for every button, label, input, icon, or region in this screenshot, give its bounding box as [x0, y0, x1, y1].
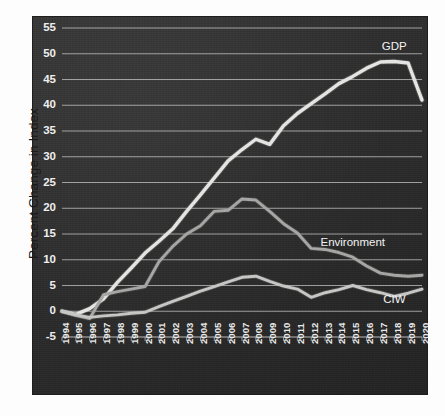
y-axis-tick-label: 20 [43, 201, 56, 213]
x-axis-tick-label: 2015 [350, 322, 361, 344]
chart-figure: -50510152025303540455055 199419951996199… [0, 0, 445, 416]
x-axis-tick-label: 2008 [253, 322, 264, 344]
x-axis-tick-label: 2002 [170, 323, 181, 344]
series-label-environment: Environment [320, 236, 385, 248]
y-axis-tick-label: 35 [43, 124, 56, 136]
series-label-ciw: CIW [383, 293, 406, 305]
x-axis-tick-label: 2014 [336, 322, 347, 344]
y-axis-tick-label: 15 [43, 227, 56, 239]
x-axis-tick-label: 2017 [378, 323, 389, 344]
y-axis-tick-label: 0 [50, 304, 56, 316]
x-axis-tick-label: 2011 [295, 323, 306, 344]
y-axis-title: Percent Change in Index [26, 79, 41, 289]
x-axis-ticks-group: 1994199519961997199819992000200120022003… [60, 322, 428, 344]
x-axis-tick-label: 2001 [156, 322, 167, 344]
x-axis-tick-label: 2010 [281, 323, 292, 344]
x-axis-tick-label: 2020 [420, 323, 428, 344]
x-axis-tick-label: 1998 [115, 322, 126, 344]
x-axis-tick-label: 2000 [143, 323, 154, 344]
series-group [62, 61, 422, 318]
x-axis-tick-label: 1996 [87, 323, 98, 344]
x-axis-tick-label: 2012 [309, 323, 320, 344]
plot-panel: -50510152025303540455055 199419951996199… [32, 16, 428, 395]
x-axis-tick-label: 2007 [240, 323, 251, 344]
x-axis-tick-label: 2005 [212, 322, 223, 344]
x-axis-tick-label: 1995 [73, 322, 84, 344]
y-axis-tick-label: 5 [50, 279, 57, 291]
x-axis-tick-label: 2004 [198, 322, 209, 344]
y-axis-tick-label: 25 [43, 176, 56, 188]
y-axis-tick-label: 30 [43, 150, 56, 162]
y-axis-ticks-group: -50510152025303540455055 [43, 21, 56, 342]
series-label-gdp: GDP [382, 40, 407, 52]
y-axis-tick-label: 55 [43, 21, 56, 33]
x-axis-tick-label: 1994 [60, 322, 71, 344]
x-axis-tick-label: 2019 [406, 323, 417, 344]
x-axis-tick-label: 2013 [323, 323, 334, 344]
x-axis-tick-label: 1999 [129, 323, 140, 344]
x-axis-tick-label: 2003 [184, 323, 195, 344]
x-axis-tick-label: 2006 [226, 323, 237, 344]
y-axis-tick-label: 10 [43, 253, 56, 265]
y-axis-tick-label: -5 [46, 330, 57, 342]
y-axis-tick-label: 45 [43, 73, 56, 85]
line-chart-svg: -50510152025303540455055 199419951996199… [32, 16, 428, 395]
x-axis-tick-label: 1997 [101, 323, 112, 344]
x-axis-tick-label: 2009 [267, 323, 278, 344]
y-axis-tick-label: 50 [43, 47, 56, 59]
series-line [62, 199, 422, 318]
series-line-halo [62, 199, 422, 318]
x-axis-tick-label: 2016 [364, 323, 375, 344]
y-axis-tick-label: 40 [43, 98, 56, 110]
x-axis-tick-label: 2018 [392, 322, 403, 344]
